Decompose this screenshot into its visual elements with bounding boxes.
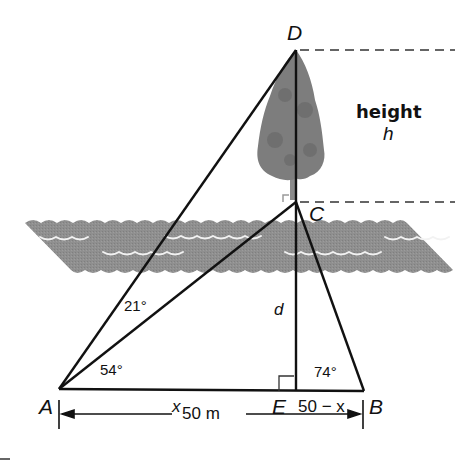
point-label-B: B (369, 396, 383, 417)
height-label: height (356, 103, 422, 121)
height-variable-h: h (383, 124, 394, 143)
point-label-C: C (309, 203, 324, 224)
dashed-guides (300, 50, 455, 202)
segment-AD (59, 50, 296, 389)
right-angle-E (279, 376, 294, 391)
tree-icon (257, 50, 324, 202)
diagram-canvas: D C A E B 21° 54° 74° d x 50 − x 50 m he… (0, 0, 459, 462)
angle-DAC: 21° (124, 298, 147, 313)
point-label-E: E (272, 396, 286, 417)
point-label-D: D (287, 22, 302, 43)
angle-CAB: 54° (100, 362, 123, 377)
angle-CBA: 74° (314, 364, 337, 379)
segment-label-50-minus-x: 50 − x (298, 398, 345, 415)
segment-label-d: d (274, 301, 283, 318)
dimension-label-50m: 50 m (182, 405, 220, 422)
segment-AB (59, 389, 364, 391)
segment-label-x: x (172, 398, 181, 415)
diagram-svg (0, 0, 459, 462)
point-label-A: A (39, 396, 53, 417)
